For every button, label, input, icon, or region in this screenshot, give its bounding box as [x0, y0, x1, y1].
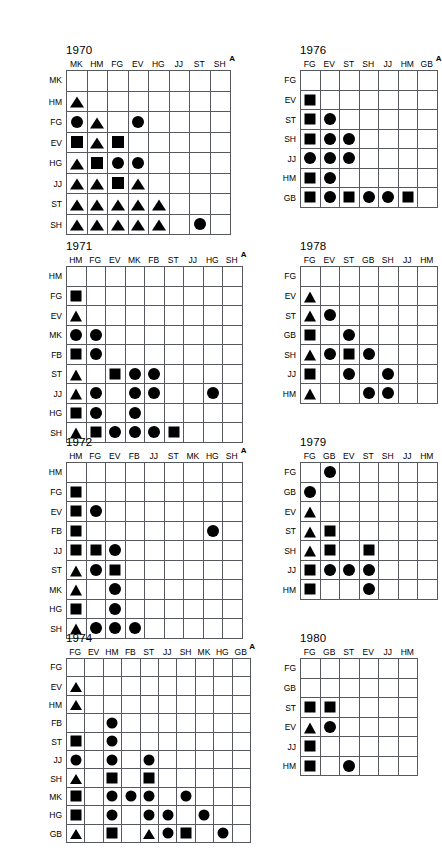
column-header-row: FGEVSTSHJJHMGBA	[276, 59, 438, 70]
filled-circle-icon	[90, 407, 102, 419]
matrix-cell	[106, 463, 126, 483]
column-header-FB: FB	[121, 647, 139, 658]
matrix-row-cells	[66, 462, 243, 483]
matrix-row-cells	[300, 757, 418, 777]
column-header-label: SH	[382, 451, 394, 461]
matrix-cell	[379, 718, 399, 738]
matrix-cell	[196, 714, 214, 732]
row-header-FB: FB	[42, 714, 66, 732]
matrix-row: SH	[42, 769, 251, 787]
column-header-label: ST	[343, 647, 354, 657]
filled-circle-icon	[343, 133, 355, 145]
matrix-cell	[122, 714, 140, 732]
matrix-cell	[88, 153, 109, 174]
column-header-label: ST	[168, 255, 179, 265]
filled-circle-icon	[324, 721, 336, 733]
filled-square-icon	[112, 177, 124, 189]
matrix-row-cells	[300, 306, 438, 326]
matrix-row-cells	[300, 384, 438, 404]
matrix: FGEVSTSHJJHMGBAFGEVSTSHJJHMGB	[276, 59, 438, 208]
column-header-label: JJ	[384, 647, 393, 657]
matrix-cell	[223, 306, 243, 326]
column-header-label: FG	[111, 59, 123, 69]
matrix-cell	[67, 522, 87, 542]
matrix-cell	[379, 757, 399, 777]
matrix-cell	[321, 580, 341, 600]
column-header-label: FB	[125, 647, 136, 657]
matrix-row-cells	[66, 751, 251, 769]
row-header-GB: GB	[276, 188, 300, 208]
matrix-row: GB	[276, 679, 418, 699]
matrix-cell	[165, 580, 185, 600]
filled-square-icon	[71, 603, 82, 614]
panel-title: 1979	[300, 436, 438, 448]
column-header-ST: ST	[339, 647, 359, 658]
matrix-cell	[301, 71, 321, 91]
matrix-row-cells	[66, 658, 251, 677]
matrix-cell	[418, 483, 438, 503]
matrix-cell	[379, 169, 399, 189]
filled-circle-icon	[324, 466, 336, 478]
matrix-cell	[67, 733, 85, 751]
filled-circle-icon	[162, 809, 173, 820]
column-header-label: HM	[401, 647, 414, 657]
row-header-ST: ST	[42, 733, 66, 751]
matrix-cell	[301, 561, 321, 581]
matrix-cell	[223, 561, 243, 581]
matrix-cell	[399, 287, 419, 307]
matrix-cell	[184, 345, 204, 365]
row-header-JJ: JJ	[276, 365, 300, 385]
row-header-JJ: JJ	[276, 737, 300, 757]
matrix-cell	[104, 696, 122, 714]
filled-circle-icon	[107, 736, 118, 747]
filled-circle-icon	[129, 407, 141, 419]
matrix-cell	[211, 153, 232, 174]
matrix-row-cells	[66, 404, 243, 424]
matrix-cell	[301, 580, 321, 600]
matrix-cell	[184, 541, 204, 561]
column-header-EV: EV	[320, 255, 340, 266]
row-header-MK: MK	[42, 580, 66, 600]
matrix-cell	[379, 188, 399, 208]
matrix-cell	[141, 769, 159, 787]
matrix-cell	[177, 825, 195, 843]
matrix-cell	[145, 561, 165, 581]
footnote-marker: A	[241, 447, 247, 455]
footnote-marker: A	[249, 643, 255, 651]
matrix-cell	[360, 110, 380, 130]
matrix-cell	[340, 737, 360, 757]
matrix-cell	[399, 463, 419, 483]
matrix: FGEVHMFBSTJJSHMKHGGBAFGEVHMFBSTJJSHMKHGG…	[42, 647, 251, 843]
matrix-cell	[321, 169, 341, 189]
row-header-HM: HM	[276, 757, 300, 777]
column-header-label: JJ	[384, 59, 393, 69]
column-header-label: FG	[69, 647, 81, 657]
matrix-cell	[379, 267, 399, 287]
filled-square-icon	[112, 136, 124, 148]
matrix-cell	[204, 287, 224, 307]
column-header-label: EV	[324, 59, 335, 69]
column-header-label: ST	[143, 647, 154, 657]
matrix-row-cells	[300, 130, 438, 150]
row-header-JJ: JJ	[42, 751, 66, 769]
column-header-GB: GB	[359, 255, 379, 266]
matrix-cell	[165, 483, 185, 503]
matrix-cell	[301, 169, 321, 189]
matrix-cell	[340, 541, 360, 561]
matrix-row: JJ	[42, 174, 231, 195]
filled-circle-icon	[107, 809, 118, 820]
matrix-cell	[204, 483, 224, 503]
matrix-cell	[126, 365, 146, 385]
footnote-marker: A	[229, 55, 235, 63]
matrix-row: FB	[42, 522, 243, 542]
matrix-cell	[321, 502, 341, 522]
matrix-cell	[418, 169, 438, 189]
matrix-row: EV	[276, 718, 418, 738]
column-header-FG: FG	[300, 59, 320, 70]
filled-square-icon	[344, 192, 355, 203]
matrix-cell	[360, 463, 380, 483]
column-header-MK: MK	[195, 647, 213, 658]
column-header-FG: FG	[300, 451, 320, 462]
column-header-FG: FG	[86, 451, 106, 462]
filled-square-icon	[305, 94, 316, 105]
